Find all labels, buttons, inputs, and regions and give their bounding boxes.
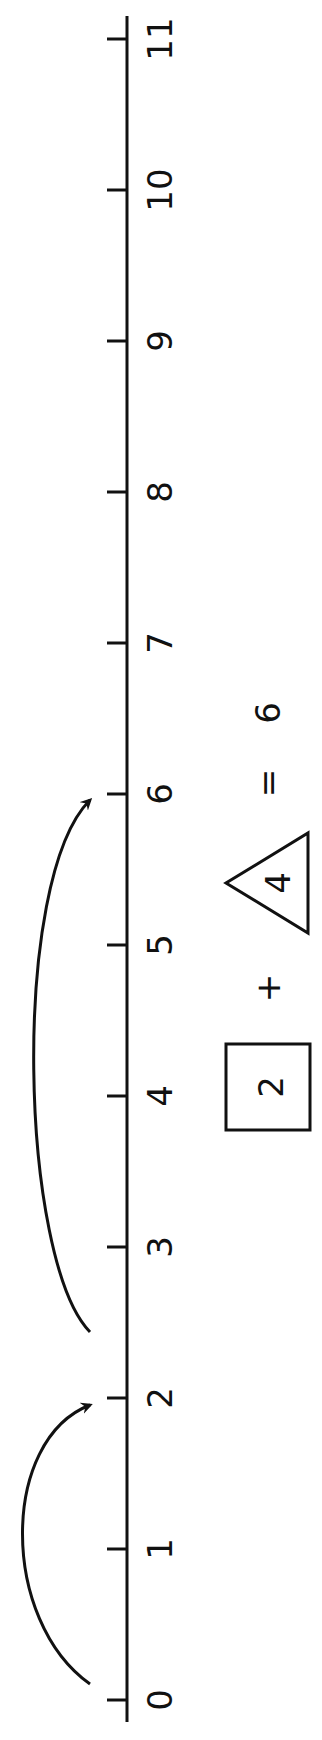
- triangle-value: 4: [258, 872, 298, 894]
- plus-sign: +: [248, 974, 288, 1003]
- tick-label-6: 6: [140, 783, 180, 805]
- tick-label-0: 0: [140, 1689, 180, 1711]
- tick-label-2: 2: [140, 1387, 180, 1409]
- tick-label-9: 9: [140, 330, 180, 352]
- tick-label-11: 11: [140, 17, 180, 60]
- equation: 2 + 4 = 6: [226, 702, 310, 1130]
- tick-label-10: 10: [140, 168, 180, 211]
- tick-label-5: 5: [140, 934, 180, 956]
- tick-label-4: 4: [140, 1085, 180, 1107]
- tick-marks: [107, 39, 127, 1700]
- result-value: 6: [248, 702, 288, 724]
- tick-label-8: 8: [140, 481, 180, 503]
- jump-arc-0-to-2: [23, 1405, 91, 1684]
- box-value: 2: [251, 1076, 291, 1098]
- tick-labels: 01234567891011: [140, 17, 180, 1710]
- tick-label-1: 1: [140, 1538, 180, 1560]
- number-line-diagram: 01234567891011 2 + 4 = 6: [0, 0, 322, 1740]
- jump-arc-2-to-6: [34, 800, 90, 1332]
- equals-sign: =: [248, 769, 288, 798]
- tick-label-3: 3: [140, 1236, 180, 1258]
- tick-label-7: 7: [140, 632, 180, 654]
